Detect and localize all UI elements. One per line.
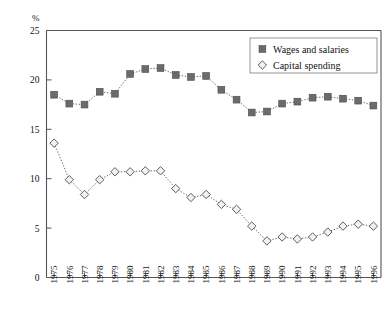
y-tick-label: 25 [30, 26, 40, 36]
data-point-marker [127, 71, 134, 78]
x-tick-label: 1992 [308, 266, 318, 284]
data-point-marker [172, 184, 180, 192]
data-point-marker [188, 74, 195, 81]
x-tick-label: 1988 [247, 265, 257, 284]
y-tick-label: 5 [35, 224, 40, 234]
data-point-marker [81, 101, 88, 108]
x-tick-label: 1990 [277, 265, 287, 284]
data-point-marker [156, 167, 164, 175]
y-tick-label: 20 [30, 75, 40, 85]
data-point-marker [339, 222, 347, 230]
data-point-marker [126, 168, 134, 176]
data-point-marker [217, 200, 225, 208]
data-point-marker [203, 73, 210, 80]
y-tick-label: 10 [30, 174, 40, 184]
data-point-marker [340, 95, 347, 102]
y-axis-ticks: 0510152025% [30, 13, 52, 283]
data-point-marker [369, 222, 377, 230]
legend-label: Wages and salaries [273, 44, 349, 55]
data-point-marker [80, 190, 88, 198]
x-tick-label: 1994 [338, 265, 348, 284]
x-tick-label: 1989 [262, 265, 272, 284]
data-point-marker [248, 109, 255, 116]
data-point-marker [354, 220, 362, 228]
data-point-marker [96, 175, 104, 183]
data-point-marker [142, 66, 149, 73]
x-tick-label: 1993 [323, 265, 333, 284]
x-tick-label: 1978 [95, 265, 105, 284]
series-line-open-diamond [54, 143, 373, 241]
data-point-marker [111, 168, 119, 176]
data-point-marker [187, 193, 195, 201]
y-axis-unit-label: % [32, 13, 40, 23]
data-point-marker [264, 108, 271, 115]
chart-legend: Wages and salariesCapital spending [250, 38, 377, 73]
data-point-marker [141, 167, 149, 175]
chart-container: 0510152025% 1975197619771978197919801981… [0, 0, 391, 323]
x-tick-label: 1984 [186, 265, 196, 284]
data-point-marker [232, 205, 240, 213]
y-tick-label: 0 [35, 273, 40, 283]
data-point-marker [233, 96, 240, 103]
data-point-marker [202, 190, 210, 198]
data-point-marker [112, 90, 119, 97]
data-point-marker [309, 94, 316, 101]
chart-series [50, 65, 378, 246]
data-point-marker [308, 233, 316, 241]
x-tick-label: 1980 [125, 265, 135, 284]
x-tick-label: 1986 [217, 265, 227, 284]
data-point-marker [218, 86, 225, 93]
data-point-marker [51, 91, 58, 98]
data-point-marker [96, 88, 103, 95]
x-tick-label: 1975 [49, 265, 59, 284]
legend-label: Capital spending [273, 60, 341, 71]
data-point-marker [293, 235, 301, 243]
data-point-marker [157, 65, 164, 72]
x-tick-label: 1981 [141, 266, 151, 284]
data-point-marker [66, 100, 73, 107]
x-tick-label: 1979 [110, 265, 120, 284]
legend-marker-wages [259, 46, 266, 53]
data-point-marker [279, 100, 286, 107]
x-tick-label: 1982 [156, 266, 166, 284]
x-tick-label: 1996 [369, 265, 379, 284]
x-tick-label: 1977 [80, 265, 90, 284]
data-point-marker [278, 233, 286, 241]
data-point-marker [355, 97, 362, 104]
data-point-marker [65, 175, 73, 183]
x-axis-ticks: 1975197619771978197919801981198219831984… [49, 265, 378, 284]
data-point-marker [172, 72, 179, 79]
x-tick-label: 1983 [171, 265, 181, 284]
data-point-marker [370, 102, 377, 109]
x-tick-label: 1991 [293, 266, 303, 284]
x-tick-label: 1985 [201, 265, 211, 284]
data-point-marker [294, 98, 301, 105]
data-point-marker [263, 237, 271, 245]
y-tick-label: 15 [30, 125, 40, 135]
data-point-marker [324, 228, 332, 236]
x-tick-label: 1995 [353, 265, 363, 284]
line-chart: 0510152025% 1975197619771978197919801981… [0, 0, 391, 323]
x-tick-label: 1987 [232, 265, 242, 284]
x-tick-label: 1976 [65, 265, 75, 284]
data-point-marker [50, 139, 58, 147]
data-point-marker [324, 93, 331, 100]
